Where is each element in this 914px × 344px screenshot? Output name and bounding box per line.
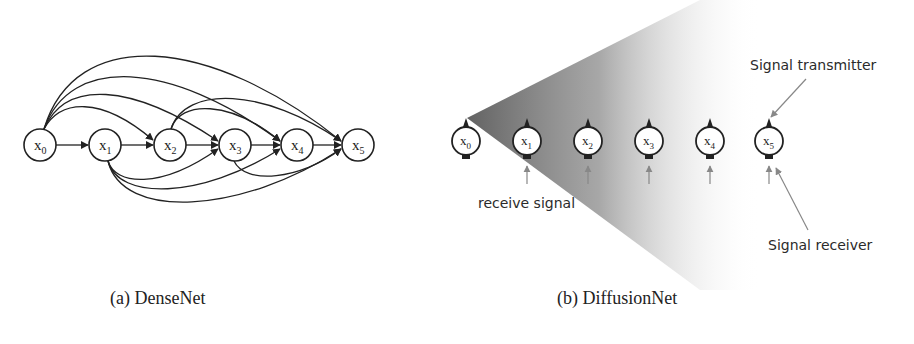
signal-receiver-label: Signal receiver <box>768 237 873 253</box>
densenet-node-x1: x1 <box>89 129 121 161</box>
densenet-node-x2: x2 <box>154 129 186 161</box>
transmitter-pointer-arrow <box>771 79 806 117</box>
receiver-pointer-arrow <box>776 168 808 230</box>
densenet-node-x4: x4 <box>281 129 313 161</box>
edge-x2-x5 <box>171 98 341 141</box>
transmitter-icon <box>463 118 469 127</box>
signal-transmitter-label: Signal transmitter <box>750 57 877 73</box>
edge-x1-x4 <box>108 149 280 189</box>
densenet-node-x5: x5 <box>342 129 374 161</box>
diffusionnet-panel: x0 x1 x2 x3 <box>452 0 877 309</box>
densenet-caption: (a) DenseNet <box>110 288 205 309</box>
figure-canvas: x0 x1 x2 x3 x4 x5 (a) DenseN <box>0 0 914 344</box>
densenet-node-x0: x0 <box>24 129 56 161</box>
edge-x0-x3 <box>44 94 218 141</box>
transmitter-icon <box>766 118 772 127</box>
densenet-panel: x0 x1 x2 x3 x4 x5 (a) DenseN <box>24 56 374 309</box>
receive-signal-label: receive signal <box>478 195 575 211</box>
diffusionnet-caption: (b) DiffusionNet <box>557 288 677 309</box>
densenet-node-x3: x3 <box>219 129 251 161</box>
